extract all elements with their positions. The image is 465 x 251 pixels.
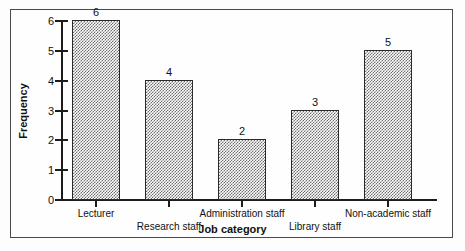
bar-value-lecturer: 6 [72, 7, 120, 18]
bar-value-library-staff: 3 [291, 97, 339, 108]
y-tick-label-4: 4 [36, 76, 54, 87]
y-tick-3 [55, 110, 68, 112]
bar-chart-plot: 0 1 2 3 4 5 6 6 4 2 3 5 Lecturer Researc… [0, 0, 465, 251]
y-tick-label-5: 5 [36, 46, 54, 57]
y-tick-label-1: 1 [36, 165, 54, 176]
x-tick-library-staff [314, 201, 316, 207]
bar-non-academic-staff[interactable] [364, 50, 412, 200]
y-tick-label-0: 0 [36, 195, 54, 206]
y-tick-2 [55, 139, 68, 141]
y-tick-6 [55, 20, 68, 22]
y-tick-4 [55, 80, 68, 82]
y-tick-label-6: 6 [36, 16, 54, 27]
x-label-administration-staff: Administration staff [182, 208, 302, 219]
bar-value-administration-staff: 2 [218, 126, 266, 137]
x-tick-non-academic-staff [387, 201, 389, 207]
bar-administration-staff[interactable] [218, 139, 266, 200]
bar-lecturer[interactable] [72, 20, 120, 200]
x-label-lecturer: Lecturer [36, 208, 156, 219]
x-label-non-academic-staff: Non-academic staff [328, 208, 448, 219]
bar-research-staff[interactable] [145, 80, 193, 200]
bar-value-research-staff: 4 [145, 67, 193, 78]
x-tick-lecturer [95, 201, 97, 207]
x-tick-research-staff [168, 201, 170, 207]
y-axis-title: Frequency [17, 66, 29, 156]
x-tick-administration-staff [241, 201, 243, 207]
y-tick-1 [55, 169, 68, 171]
figure: 0 1 2 3 4 5 6 6 4 2 3 5 Lecturer Researc… [0, 0, 465, 251]
y-tick-0 [55, 199, 68, 201]
bar-library-staff[interactable] [291, 110, 339, 200]
y-tick-label-3: 3 [36, 106, 54, 117]
y-tick-label-2: 2 [36, 135, 54, 146]
y-tick-5 [55, 50, 68, 52]
bar-value-non-academic-staff: 5 [364, 37, 412, 48]
x-axis-title: Job category [0, 223, 465, 235]
